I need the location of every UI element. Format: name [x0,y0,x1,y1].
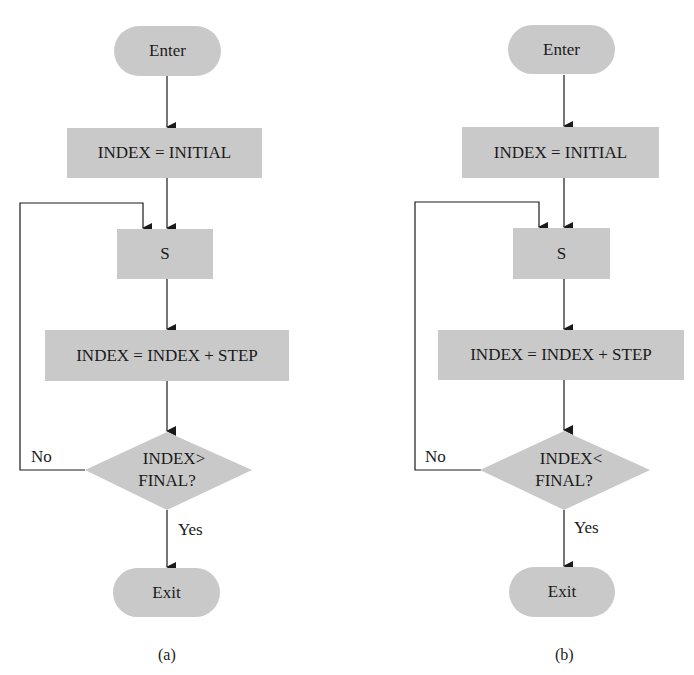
init-label: INDEX = INITIAL [494,143,627,163]
enter-label: Enter [149,41,186,61]
no-label: No [31,447,52,467]
body-label: S [160,244,169,264]
step-label: INDEX = INDEX + STEP [470,345,652,365]
no-label: No [425,447,446,467]
caption-b: (b) [555,646,574,664]
exit-label: Exit [152,583,180,603]
init-process: INDEX = INITIAL [67,128,262,178]
exit-label: Exit [548,582,576,602]
init-label: INDEX = INITIAL [98,143,231,163]
body-process: S [513,228,610,279]
yes-label: Yes [574,518,599,538]
decision-label: INDEX> FINAL? [117,448,217,492]
decision-line-1: INDEX> [117,448,217,470]
exit-terminal: Exit [113,568,220,617]
yes-label: Yes [178,520,203,540]
exit-terminal: Exit [509,567,615,617]
caption-a: (a) [158,646,176,664]
step-label: INDEX = INDEX + STEP [76,346,258,366]
enter-label: Enter [543,40,580,60]
step-process: INDEX = INDEX + STEP [438,330,684,380]
body-process: S [117,229,213,279]
step-process: INDEX = INDEX + STEP [45,330,289,381]
decision-line-2: FINAL? [514,470,614,492]
enter-terminal: Enter [508,25,615,74]
decision-label: INDEX< FINAL? [514,448,614,492]
decision-line-2: FINAL? [117,470,217,492]
enter-terminal: Enter [114,26,221,76]
decision-line-1: INDEX< [514,448,614,470]
body-label: S [557,244,566,264]
init-process: INDEX = INITIAL [462,127,659,178]
